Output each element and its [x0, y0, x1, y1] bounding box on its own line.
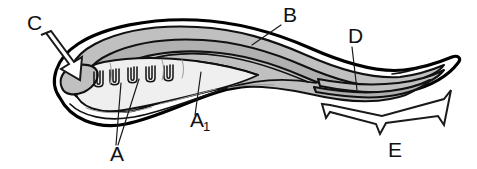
label-B: B: [283, 3, 297, 26]
label-D: D: [348, 24, 363, 47]
label-A1-subscript: 1: [203, 119, 210, 134]
label-C: C: [27, 11, 42, 34]
label-A: A: [110, 142, 124, 165]
anatomy-diagram-svg: A A 1 B C D E: [0, 0, 477, 169]
label-A1: A: [190, 108, 204, 131]
anatomy-figure: A A 1 B C D E: [0, 0, 477, 169]
label-E: E: [388, 138, 402, 161]
